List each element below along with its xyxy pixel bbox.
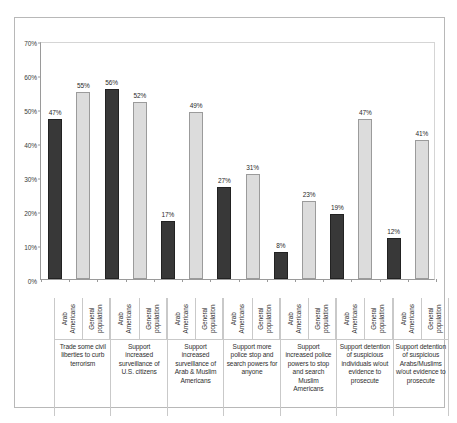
bar-value-label: 27% [218,178,231,185]
series-label-arab-americans: ArabAmericans [174,304,190,333]
x-axis-tick-mark [97,279,98,282]
series-label-general-population: Generalpopulation [201,305,217,334]
bar-group-item[interactable]: 12% [387,43,401,279]
category-label: Support more police stop and search powe… [223,340,279,416]
x-axis-tick-mark [267,279,268,282]
bar-general-population[interactable] [133,102,147,279]
y-axis-tick-label: 70% [24,40,37,47]
y-axis-tick-label: 10% [24,244,37,251]
x-axis-tick-mark [182,279,183,282]
x-axis-tick-mark [41,279,42,282]
y-axis-tick-label: 60% [24,74,37,81]
bar-value-label: 31% [246,165,259,172]
bar-value-label: 8% [276,243,285,250]
x-axis-tick-mark [408,279,409,282]
bar-value-label: 47% [49,110,62,117]
series-label-arab-americans: ArabAmericans [61,304,77,333]
bar-group-item[interactable]: 27% [217,43,231,279]
series-label-general-population: Generalpopulation [145,305,161,334]
bar-group-item[interactable]: 47% [358,43,372,279]
category-label: Support increased surveillance of Arab &… [167,340,223,416]
category-label: Support increased police powers to stop … [280,340,336,416]
category-label: Support detention of suspicious Arabs/Mu… [393,340,449,416]
series-label-arab-americans: ArabAmericans [399,304,415,333]
x-axis-tick-mark [436,279,437,282]
category-label: Trade some civil liberties to curb terro… [54,340,110,416]
bar-value-label: 56% [105,80,118,87]
series-label-general-population: Generalpopulation [427,305,443,334]
series-label-general-population: Generalpopulation [371,305,387,334]
bar-general-population[interactable] [189,112,203,279]
bar-arab-americans[interactable] [330,214,344,279]
bar-group-item[interactable]: 49% [189,43,203,279]
bar-group-item[interactable]: 31% [246,43,260,279]
category-label: Support detention of suspicious individu… [336,340,392,416]
bar-value-label: 12% [387,229,400,236]
bar-group-item[interactable]: 41% [415,43,429,279]
x-axis-tick-mark [380,279,381,282]
category-label: Support increased surveillance of U.S. c… [110,340,166,416]
bar-group-item[interactable]: 55% [76,43,90,279]
series-label-cell: ArabAmericans [110,298,138,340]
x-axis-tick-mark [239,279,240,282]
plot-area: 0%10%20%30%40%50%60%70% 47%55%56%52%17%4… [40,42,435,280]
bar-value-label: 47% [359,110,372,117]
series-label-cell: Generalpopulation [252,298,280,340]
x-axis-tick-mark [210,279,211,282]
series-label-cell: ArabAmericans [54,298,82,340]
bar-value-label: 52% [133,93,146,100]
bar-group-item[interactable]: 23% [302,43,316,279]
y-axis-tick-label: 40% [24,142,37,149]
bar-group-item[interactable]: 56% [105,43,119,279]
series-label-cell: Generalpopulation [421,298,449,340]
bar-arab-americans[interactable] [387,238,401,279]
series-label-cell: Generalpopulation [364,298,392,340]
chart-frame: 0%10%20%30%40%50%60%70% 47%55%56%52%17%4… [14,17,445,408]
series-label-arab-americans: ArabAmericans [286,304,302,333]
bar-group-item[interactable]: 8% [274,43,288,279]
bar-general-population[interactable] [246,174,260,279]
series-label-row: ArabAmericansGeneralpopulationArabAmeric… [54,298,449,340]
bars-layer: 47%55%56%52%17%49%27%31%8%23%19%47%12%41… [41,43,434,279]
bar-arab-americans[interactable] [105,89,119,279]
bar-group-item[interactable]: 19% [330,43,344,279]
bar-general-population[interactable] [415,140,429,279]
y-axis-tick-label: 0% [28,278,37,285]
series-label-cell: Generalpopulation [195,298,223,340]
x-axis-tick-mark [323,279,324,282]
bar-value-label: 23% [303,192,316,199]
bar-value-label: 55% [77,83,90,90]
series-label-general-population: Generalpopulation [89,305,105,334]
bar-arab-americans[interactable] [274,252,288,279]
y-axis-tick-label: 20% [24,210,37,217]
series-label-general-population: Generalpopulation [314,305,330,334]
series-label-cell: Generalpopulation [139,298,167,340]
y-axis-tick-label: 30% [24,176,37,183]
x-axis-tick-mark [351,279,352,282]
x-axis-tick-mark [295,279,296,282]
bar-arab-americans[interactable] [217,187,231,279]
bar-group-item[interactable]: 17% [161,43,175,279]
series-label-cell: ArabAmericans [336,298,364,340]
bar-value-label: 49% [190,103,203,110]
bar-general-population[interactable] [76,92,90,279]
x-axis-tick-mark [69,279,70,282]
y-axis-tick-label: 50% [24,108,37,115]
x-axis-tick-mark [126,279,127,282]
bar-general-population[interactable] [302,201,316,279]
bar-arab-americans[interactable] [48,119,62,279]
series-label-arab-americans: ArabAmericans [343,304,359,333]
series-label-arab-americans: ArabAmericans [230,304,246,333]
bar-value-label: 17% [162,212,175,219]
bar-value-label: 19% [331,205,344,212]
series-label-cell: ArabAmericans [393,298,421,340]
bar-general-population[interactable] [358,119,372,279]
series-label-cell: ArabAmericans [223,298,251,340]
bar-value-label: 41% [416,131,429,138]
category-label-row: Trade some civil liberties to curb terro… [54,340,449,416]
bar-group-item[interactable]: 52% [133,43,147,279]
bar-group-item[interactable]: 47% [48,43,62,279]
bar-arab-americans[interactable] [161,221,175,279]
series-label-cell: ArabAmericans [280,298,308,340]
series-label-arab-americans: ArabAmericans [117,304,133,333]
